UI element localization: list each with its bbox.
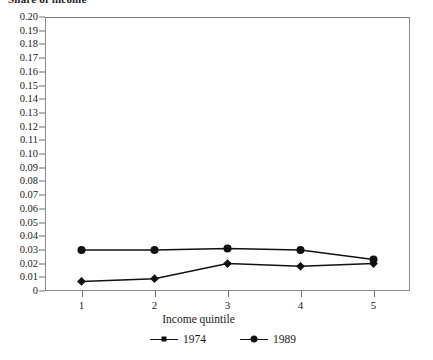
y-tick-mark <box>39 249 45 250</box>
y-tick-label: 0 <box>33 286 38 296</box>
y-tick-label: 0.12 <box>20 122 38 132</box>
legend-swatch-1989 <box>240 333 268 345</box>
legend-circle-icon <box>251 336 258 343</box>
y-tick-label: 0.11 <box>20 135 38 145</box>
y-tick-mark <box>39 99 45 100</box>
x-tick-label: 5 <box>371 299 377 311</box>
y-tick-label: 0.10 <box>20 149 38 159</box>
y-tick-label: 0.03 <box>20 245 38 255</box>
y-tick-label: 0.06 <box>20 204 38 214</box>
x-tick-mark <box>374 291 375 297</box>
x-tick-label: 3 <box>225 299 231 311</box>
y-tick-label: 0.09 <box>20 163 38 173</box>
legend-item-1974[interactable]: 1974 <box>150 333 206 345</box>
y-tick-label: 0.08 <box>20 176 38 186</box>
y-tick-label: 0.17 <box>20 53 38 63</box>
y-tick-mark <box>39 30 45 31</box>
y-tick-label: 0.19 <box>20 26 38 36</box>
y-tick-label: 0.20 <box>20 12 38 22</box>
y-tick-mark <box>39 236 45 237</box>
y-tick-label: 0.16 <box>20 67 38 77</box>
legend-item-1989[interactable]: 1989 <box>240 333 296 345</box>
y-tick-mark <box>39 181 45 182</box>
y-tick-label: 0.04 <box>20 231 38 241</box>
x-tick-label: 1 <box>79 299 85 311</box>
y-tick-mark <box>39 195 45 196</box>
y-tick-label: 0.15 <box>20 81 38 91</box>
y-tick-mark <box>39 291 45 292</box>
y-tick-mark <box>39 263 45 264</box>
legend-diamond-icon <box>162 337 167 342</box>
y-tick-mark <box>39 140 45 141</box>
x-tick-mark <box>228 291 229 297</box>
y-tick-mark <box>39 277 45 278</box>
y-tick-label: 0.18 <box>20 39 38 49</box>
x-tick-label: 4 <box>298 299 304 311</box>
legend-label: 1974 <box>183 333 206 345</box>
y-tick-mark <box>39 112 45 113</box>
chart-figure: Share of income 00.010.020.030.040.050.0… <box>0 0 433 360</box>
legend-label: 1989 <box>273 333 296 345</box>
legend-swatch-1974 <box>150 333 178 345</box>
y-tick-mark <box>39 167 45 168</box>
y-tick-mark <box>39 44 45 45</box>
x-tick-mark <box>82 291 83 297</box>
y-tick-label: 0.02 <box>20 259 38 269</box>
x-tick-mark <box>301 291 302 297</box>
y-tick-mark <box>39 58 45 59</box>
y-tick-mark <box>39 222 45 223</box>
chart-legend: 19741989 <box>0 333 433 353</box>
x-tick-mark <box>155 291 156 297</box>
y-tick-mark <box>39 154 45 155</box>
y-tick-label: 0.14 <box>20 94 38 104</box>
x-axis-title: Income quintile <box>0 313 433 325</box>
plot-area <box>45 17 410 291</box>
y-tick-mark <box>39 17 45 18</box>
y-tick-label: 0.13 <box>20 108 38 118</box>
y-tick-label: 0.05 <box>20 218 38 228</box>
y-tick-label: 0.07 <box>20 190 38 200</box>
y-tick-mark <box>39 126 45 127</box>
y-tick-label: 0.01 <box>20 272 38 282</box>
x-tick-label: 2 <box>152 299 158 311</box>
y-tick-mark <box>39 208 45 209</box>
x-axis-title-label: Income quintile <box>162 313 235 325</box>
y-axis: 00.010.020.030.040.050.060.070.080.090.1… <box>0 0 45 360</box>
y-tick-mark <box>39 71 45 72</box>
y-tick-mark <box>39 85 45 86</box>
